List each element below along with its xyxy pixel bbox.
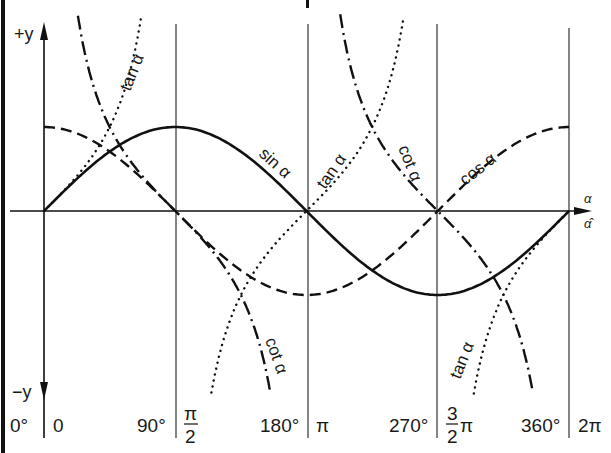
plus-y-label: +y (14, 24, 34, 44)
tick-rad-0: 0 (53, 415, 64, 436)
gridlines (176, 24, 569, 438)
left-border (1, 0, 5, 453)
tick-deg-180: 180° (260, 415, 299, 436)
trig-functions-chart: +y −y α α̂ 0° 0 90° π 2 180° π 270° 3 2 … (0, 0, 611, 453)
x-axis (10, 207, 592, 215)
y-axis (40, 22, 48, 438)
tick-rad-90-den: 2 (185, 426, 196, 447)
minus-y-label: −y (12, 382, 32, 402)
tick-rad-90-num: π (184, 403, 197, 424)
label-cos: cos α (456, 149, 500, 189)
label-cot-1: cot α (394, 142, 426, 184)
label-tan-2: tan α (313, 150, 351, 192)
tick-rad-270-num: 3 (447, 403, 458, 424)
top-mark (306, 0, 309, 8)
cot-curve-branch-1 (78, 16, 271, 393)
tick-deg-360: 360° (521, 415, 560, 436)
tick-deg-270: 270° (389, 415, 428, 436)
y-axis-down-arrow-icon (40, 382, 48, 400)
tick-rad-270-pi: π (460, 415, 473, 436)
tick-deg-0: 0° (10, 415, 28, 436)
x-axis-arrow-icon (574, 207, 592, 215)
tan-curve-branch-1 (44, 17, 141, 211)
tan-curve-branch-3 (474, 211, 569, 394)
tick-rad-360: 2π (578, 415, 602, 436)
tick-rad-180: π (316, 415, 329, 436)
label-tan-1: tan α (116, 51, 148, 94)
alpha-hat-label: α̂ (584, 216, 594, 231)
tick-rad-270-den: 2 (447, 426, 458, 447)
label-sin: sin α (255, 144, 295, 183)
alpha-label: α (584, 191, 592, 206)
y-axis-up-arrow-icon (40, 22, 48, 40)
label-tan-3: tan α (446, 339, 478, 382)
tick-deg-90: 90° (137, 415, 166, 436)
